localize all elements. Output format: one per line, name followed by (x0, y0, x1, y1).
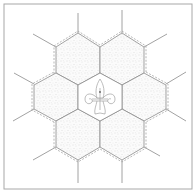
quilt-diagram (0, 0, 195, 191)
